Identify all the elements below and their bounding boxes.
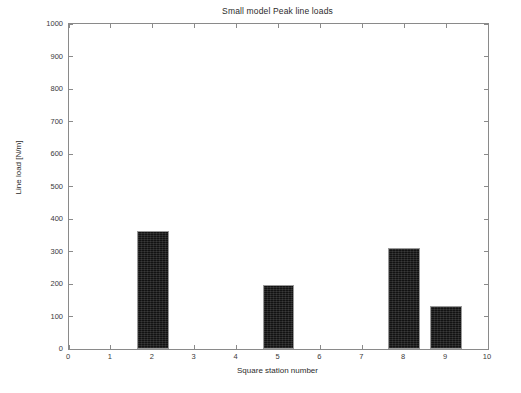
y-tick-label: 0 xyxy=(59,344,63,353)
y-tick-mark xyxy=(69,154,73,155)
y-tick-mark xyxy=(69,251,73,252)
x-tick-mark xyxy=(404,24,405,28)
x-tick-mark xyxy=(69,345,70,349)
x-tick-label: 3 xyxy=(192,352,196,361)
x-tick-mark xyxy=(446,24,447,28)
y-tick-label: 700 xyxy=(50,116,63,125)
x-tick-mark xyxy=(320,24,321,28)
y-tick-label: 400 xyxy=(50,214,63,223)
y-tick-mark xyxy=(484,186,488,187)
y-tick-mark xyxy=(69,121,73,122)
x-tick-mark xyxy=(488,24,489,28)
x-tick-mark xyxy=(488,345,489,349)
x-tick-label: 4 xyxy=(234,352,238,361)
x-tick-mark xyxy=(110,24,111,28)
y-tick-label: 900 xyxy=(50,51,63,60)
y-tick-mark xyxy=(484,316,488,317)
x-tick-mark xyxy=(152,24,153,28)
plot-area xyxy=(68,23,489,350)
x-tick-label: 0 xyxy=(66,352,70,361)
bar-station-5 xyxy=(263,285,295,349)
y-tick-mark xyxy=(484,56,488,57)
x-tick-mark xyxy=(69,24,70,28)
y-tick-mark xyxy=(69,89,73,90)
x-tick-label: 8 xyxy=(401,352,405,361)
y-tick-label: 100 xyxy=(50,311,63,320)
x-tick-label: 10 xyxy=(483,352,491,361)
x-axis-tick-labels: 012345678910 xyxy=(68,352,487,364)
x-tick-label: 5 xyxy=(275,352,279,361)
x-tick-mark xyxy=(236,345,237,349)
y-tick-mark xyxy=(69,284,73,285)
x-tick-mark xyxy=(362,345,363,349)
y-tick-mark xyxy=(484,121,488,122)
y-tick-label: 300 xyxy=(50,246,63,255)
x-tick-label: 1 xyxy=(108,352,112,361)
y-tick-mark xyxy=(69,24,73,25)
x-tick-label: 2 xyxy=(150,352,154,361)
x-tick-label: 6 xyxy=(317,352,321,361)
y-tick-label: 500 xyxy=(50,181,63,190)
plot-inner xyxy=(69,24,488,349)
x-tick-label: 7 xyxy=(359,352,363,361)
y-tick-label: 1000 xyxy=(46,19,63,28)
x-tick-mark xyxy=(320,345,321,349)
y-axis-title: Line load [N/m] xyxy=(14,88,23,248)
bar-station-2 xyxy=(137,231,169,349)
y-tick-mark xyxy=(69,56,73,57)
y-tick-mark xyxy=(484,154,488,155)
x-axis-title: Square station number xyxy=(68,366,487,375)
y-tick-mark xyxy=(69,219,73,220)
y-tick-mark xyxy=(484,89,488,90)
y-tick-mark xyxy=(69,316,73,317)
figure-canvas: Small model Peak line loads Line load [N… xyxy=(0,0,521,393)
x-tick-label: 9 xyxy=(443,352,447,361)
x-tick-mark xyxy=(362,24,363,28)
chart-title: Small model Peak line loads xyxy=(68,6,487,16)
bar-station-9 xyxy=(430,306,462,349)
y-tick-label: 200 xyxy=(50,279,63,288)
y-tick-mark xyxy=(69,186,73,187)
y-tick-mark xyxy=(484,251,488,252)
y-tick-mark xyxy=(484,284,488,285)
bar-station-8 xyxy=(388,248,420,349)
y-tick-label: 800 xyxy=(50,84,63,93)
x-tick-mark xyxy=(194,24,195,28)
x-tick-mark xyxy=(278,24,279,28)
x-tick-mark xyxy=(194,345,195,349)
x-tick-mark xyxy=(110,345,111,349)
y-axis-tick-labels: 01002003004005006007008009001000 xyxy=(38,23,63,348)
x-tick-mark xyxy=(236,24,237,28)
y-tick-mark xyxy=(484,219,488,220)
y-tick-label: 600 xyxy=(50,149,63,158)
y-tick-mark xyxy=(69,349,73,350)
